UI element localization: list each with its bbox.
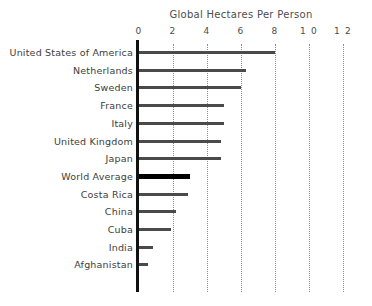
bar-row <box>139 115 343 133</box>
bar-netherlands <box>139 69 246 72</box>
gridline-12 <box>343 44 344 292</box>
bar-row <box>139 62 343 80</box>
category-label-sweden: Sweden <box>1 82 133 93</box>
category-label-afghanistan: Afghanistan <box>1 259 133 270</box>
category-label-italy: Italy <box>1 118 133 129</box>
bar-world-average <box>139 174 190 179</box>
category-label-china: China <box>1 206 133 217</box>
category-label-united-kingdom: United Kingdom <box>1 136 133 147</box>
category-label-india: India <box>1 242 133 253</box>
bar-row <box>139 133 343 151</box>
bar-row <box>139 97 343 115</box>
bar-row <box>139 239 343 257</box>
x-tick-label-10: 1 0 <box>300 26 318 36</box>
bar-china <box>139 210 176 213</box>
category-label-united-states-of-america: United States of America <box>1 47 133 58</box>
bar-costa-rica <box>139 193 188 196</box>
category-label-france: France <box>1 100 133 111</box>
bar-row <box>139 150 343 168</box>
category-label-japan: Japan <box>1 153 133 164</box>
bar-row <box>139 44 343 62</box>
bar-italy <box>139 122 224 125</box>
bar-france <box>139 104 224 107</box>
y-axis-category-labels: United States of AmericaNetherlandsSwede… <box>0 44 133 292</box>
bar-row <box>139 221 343 239</box>
bar-united-kingdom <box>139 140 221 143</box>
x-tick-label-6: 6 <box>238 26 245 36</box>
bar-row <box>139 79 343 97</box>
bar-japan <box>139 157 221 160</box>
bar-cuba <box>139 228 171 231</box>
bar-row <box>139 203 343 221</box>
x-tick-label-2: 2 <box>170 26 177 36</box>
category-label-costa-rica: Costa Rica <box>1 189 133 200</box>
bar-united-states-of-america <box>139 51 275 54</box>
bar-row <box>139 168 343 186</box>
plot-area: 024681 01 2 <box>139 44 343 292</box>
x-tick-label-0: 0 <box>136 26 143 36</box>
bar-sweden <box>139 86 241 89</box>
chart-title: Global Hectares Per Person <box>139 9 343 20</box>
bar-row <box>139 186 343 204</box>
bar-afghanistan <box>139 263 148 266</box>
category-label-netherlands: Netherlands <box>1 65 133 76</box>
x-tick-label-12: 1 2 <box>334 26 352 36</box>
category-label-cuba: Cuba <box>1 224 133 235</box>
x-tick-label-8: 8 <box>272 26 279 36</box>
bar-row <box>139 256 343 274</box>
category-label-world-average: World Average <box>1 171 133 182</box>
x-tick-label-4: 4 <box>204 26 211 36</box>
bar-chart: Global Hectares Per Person 024681 01 2 U… <box>0 0 372 306</box>
bar-india <box>139 246 153 249</box>
